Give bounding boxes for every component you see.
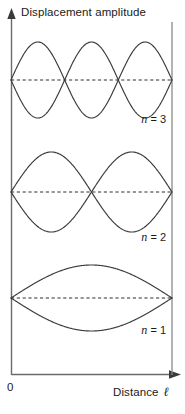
figure-canvas: Displacement amplitude Distanceℓ 0 n = 3… xyxy=(0,0,185,414)
mode-label-n2: n = 2 xyxy=(100,230,166,245)
mode-label-n1: n = 1 xyxy=(100,323,166,338)
x-axis-title: Distanceℓ xyxy=(113,385,169,400)
mode-label-n3: n = 3 xyxy=(100,112,166,127)
up-arrow-icon xyxy=(7,8,15,19)
origin-label: 0 xyxy=(7,381,13,393)
mode-value: = 3 xyxy=(147,113,166,125)
wave-mode-n1 xyxy=(11,265,172,331)
right-arrow-icon xyxy=(169,370,181,379)
x-axis-symbol: ℓ xyxy=(159,385,169,399)
x-axis-title-text: Distance xyxy=(113,386,159,398)
mode-value: = 2 xyxy=(147,231,166,243)
waves-group xyxy=(11,42,172,331)
y-axis-title: Displacement amplitude xyxy=(21,6,146,18)
wave-mode-n3 xyxy=(11,42,172,118)
wave-mode-n2 xyxy=(11,152,172,232)
wave-envelope-upper xyxy=(11,265,172,298)
mode-value: = 1 xyxy=(147,324,166,336)
standing-wave-plot xyxy=(0,0,185,414)
